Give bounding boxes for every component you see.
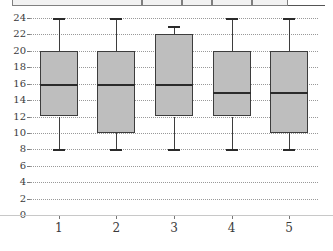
whisker-cap-lower — [168, 149, 180, 151]
whisker-lower — [174, 117, 175, 150]
median-line — [213, 92, 251, 94]
y-axis-tick-label: 20 — [2, 46, 26, 56]
whisker-cap-upper — [226, 18, 238, 20]
y-axis-tick-label: 22 — [2, 29, 26, 39]
median-line — [270, 92, 308, 94]
y-axis-tick-label: 24 — [2, 13, 26, 23]
x-axis-tick-label: 2 — [96, 221, 136, 235]
table-header-cell — [142, 0, 182, 6]
whisker-cap-lower — [53, 149, 65, 151]
y-axis-tick-label: 16 — [2, 79, 26, 89]
whisker-upper — [232, 18, 233, 51]
whisker-cap-upper — [168, 26, 180, 28]
table-header-cell — [182, 0, 212, 6]
y-axis-tick-label: 12 — [2, 112, 26, 122]
whisker-lower — [289, 133, 290, 149]
whisker-cap-lower — [283, 149, 295, 151]
table-header-cell — [12, 0, 142, 6]
y-axis-tick-label: 4 — [2, 177, 26, 187]
median-line — [155, 84, 193, 86]
median-line — [97, 84, 135, 86]
plot-area — [30, 18, 318, 215]
x-axis-tick-label: 1 — [39, 221, 79, 235]
y-axis-tick-label: 18 — [2, 62, 26, 72]
whisker-upper — [59, 18, 60, 51]
whisker-lower — [232, 117, 233, 150]
x-axis-tick-label: 4 — [212, 221, 252, 235]
whisker-cap-upper — [110, 18, 122, 20]
whisker-lower — [116, 133, 117, 149]
y-axis-tick-label: 8 — [2, 144, 26, 154]
whisker-cap-upper — [283, 18, 295, 20]
box-iqr — [155, 34, 193, 116]
whisker-upper — [289, 18, 290, 51]
box-iqr — [97, 51, 135, 133]
table-header-strip — [0, 0, 333, 7]
whisker-cap-lower — [226, 149, 238, 151]
whisker-cap-upper — [53, 18, 65, 20]
x-axis-tick-label: 5 — [269, 221, 309, 235]
whisker-cap-lower — [110, 149, 122, 151]
y-axis-tick-label: 14 — [2, 95, 26, 105]
table-header-cell — [252, 0, 288, 6]
box-iqr — [213, 51, 251, 117]
x-axis-tick-label: 3 — [154, 221, 194, 235]
median-line — [40, 84, 78, 86]
box-plot-chart: 024681012141618202224 12345 — [0, 7, 333, 251]
axis-baseline — [0, 215, 333, 216]
whisker-upper — [116, 18, 117, 51]
y-axis-tick-label: 10 — [2, 128, 26, 138]
y-axis-labels: 024681012141618202224 — [0, 18, 26, 215]
y-axis-tick-label: 6 — [2, 161, 26, 171]
y-axis-tick-label: 2 — [2, 194, 26, 204]
table-header-cell — [212, 0, 252, 6]
whisker-lower — [59, 117, 60, 150]
